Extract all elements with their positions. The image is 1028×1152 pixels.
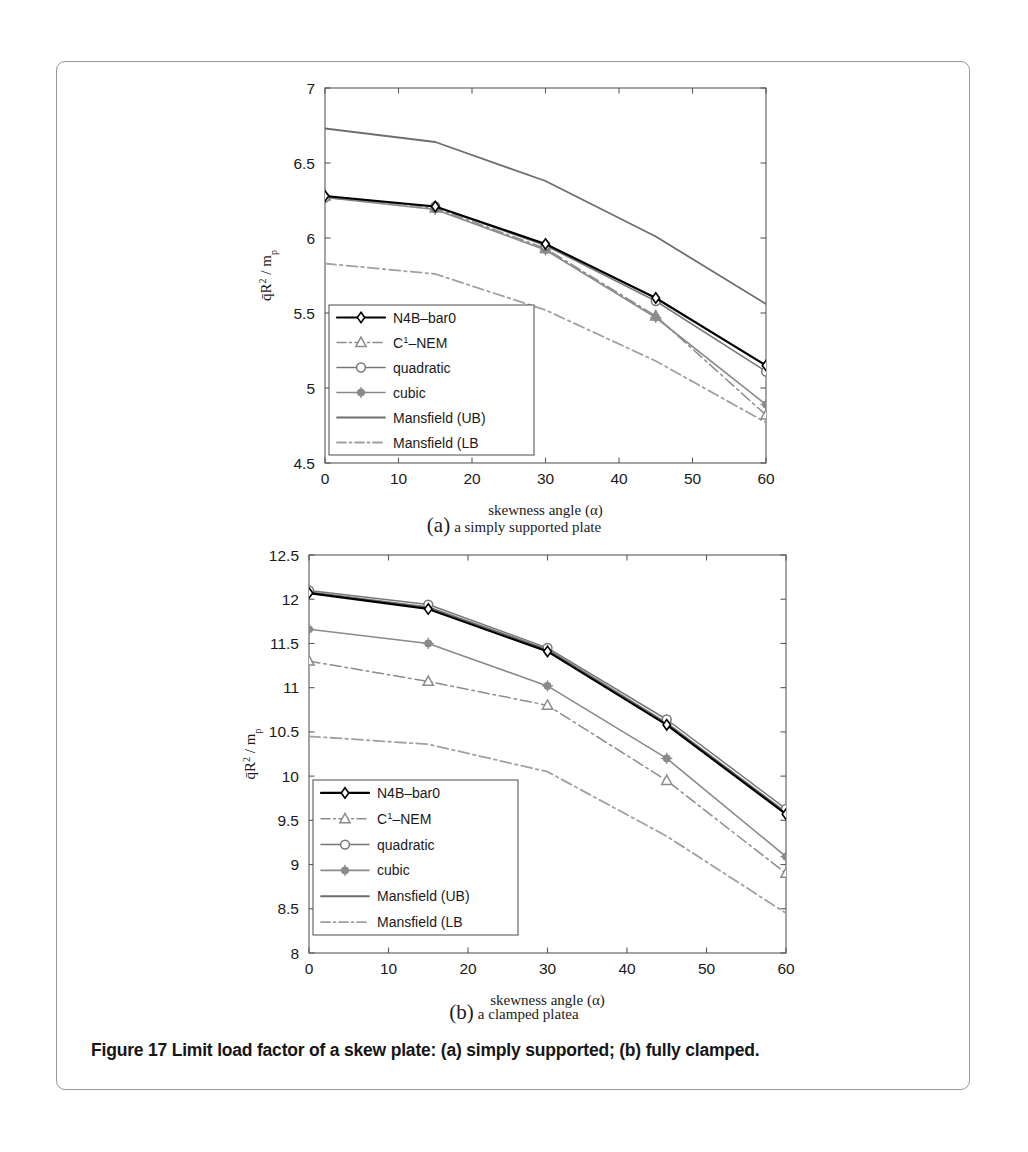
subcaption-b-text: a clamped platea bbox=[478, 1006, 579, 1022]
subcaption-a: (a) a simply supported plate bbox=[57, 513, 971, 538]
legend-label-1: C1–NEM bbox=[393, 333, 447, 351]
figure-caption: Figure 17 Limit load factor of a skew pl… bbox=[91, 1040, 941, 1061]
y-tick-label: 12 bbox=[282, 591, 299, 608]
chart-b-container: 010203040506088.599.51010.51111.51212.5s… bbox=[57, 537, 971, 1027]
x-tick-label: 60 bbox=[757, 470, 775, 487]
subcaption-b-label: (b) bbox=[449, 1000, 474, 1024]
x-tick-label: 0 bbox=[321, 470, 330, 487]
x-tick-label: 40 bbox=[618, 960, 636, 977]
x-tick-label: 60 bbox=[777, 960, 795, 977]
x-tick-label: 20 bbox=[463, 470, 481, 487]
series-line-4 bbox=[325, 129, 766, 305]
y-tick-label: 5 bbox=[306, 380, 315, 397]
legend-box bbox=[329, 305, 534, 455]
legend-label-2: quadratic bbox=[377, 837, 435, 853]
y-tick-label: 8.5 bbox=[277, 900, 299, 917]
marker-circle bbox=[341, 840, 350, 849]
x-tick-label: 50 bbox=[698, 960, 716, 977]
legend-label-0: N4B–bar0 bbox=[377, 785, 440, 801]
subcaption-b: (b) a clamped platea bbox=[57, 1000, 971, 1025]
y-tick-label: 10.5 bbox=[269, 723, 299, 740]
chart-legend: N4B–bar0C1–NEMquadraticcubicMansfield (U… bbox=[329, 305, 534, 455]
y-tick-label: 5.5 bbox=[293, 305, 315, 322]
y-axis-title-text: q̄R2 / mp bbox=[241, 729, 263, 780]
y-tick-label: 7 bbox=[306, 80, 315, 97]
y-tick-label: 10 bbox=[282, 768, 300, 785]
chart-b-plot: 010203040506088.599.51010.51111.51212.5s… bbox=[57, 537, 971, 1027]
y-tick-label: 6.5 bbox=[293, 155, 315, 172]
legend-label-1: C1–NEM bbox=[377, 809, 431, 827]
legend-label-3: cubic bbox=[377, 862, 410, 878]
y-axis-title: q̄R2 / mp bbox=[257, 250, 279, 301]
legend-label-0: N4B–bar0 bbox=[393, 310, 456, 326]
legend-label-3: cubic bbox=[393, 385, 426, 401]
x-tick-label: 10 bbox=[380, 960, 398, 977]
legend-box bbox=[313, 780, 518, 935]
chart-a-plot: 01020304050604.555.566.57skewness angle … bbox=[57, 62, 971, 537]
legend-label-4: Mansfield (UB) bbox=[377, 888, 470, 904]
y-axis-title-text: q̄R2 / mp bbox=[257, 250, 279, 301]
y-tick-label: 11.5 bbox=[270, 635, 299, 652]
x-tick-label: 10 bbox=[390, 470, 408, 487]
marker-triangle bbox=[662, 775, 672, 784]
y-tick-label: 6 bbox=[306, 230, 315, 247]
y-tick-label: 11 bbox=[283, 679, 299, 696]
chart-legend: N4B–bar0C1–NEMquadraticcubicMansfield (U… bbox=[313, 780, 518, 935]
chart-a-container: 01020304050604.555.566.57skewness angle … bbox=[57, 62, 971, 537]
y-tick-label: 4.5 bbox=[293, 455, 315, 472]
legend-label-5: Mansfield (LB bbox=[393, 435, 479, 451]
figure-frame: 01020304050604.555.566.57skewness angle … bbox=[56, 61, 970, 1090]
subcaption-a-text: a simply supported plate bbox=[454, 519, 601, 535]
x-tick-label: 20 bbox=[459, 960, 477, 977]
y-tick-label: 9 bbox=[290, 856, 299, 873]
legend-label-5: Mansfield (LB bbox=[377, 914, 463, 930]
subcaption-a-label: (a) bbox=[427, 513, 450, 537]
y-tick-label: 12.5 bbox=[269, 547, 299, 564]
legend-label-2: quadratic bbox=[393, 360, 451, 376]
x-tick-label: 0 bbox=[305, 960, 314, 977]
y-tick-label: 9.5 bbox=[277, 812, 299, 829]
x-tick-label: 30 bbox=[537, 470, 555, 487]
x-tick-label: 50 bbox=[684, 470, 702, 487]
x-tick-label: 30 bbox=[539, 960, 557, 977]
x-tick-label: 40 bbox=[610, 470, 628, 487]
marker-triangle bbox=[781, 868, 791, 877]
marker-circle bbox=[357, 363, 366, 372]
legend-label-4: Mansfield (UB) bbox=[393, 410, 486, 426]
marker-triangle bbox=[304, 656, 314, 665]
y-tick-label: 8 bbox=[290, 945, 299, 962]
y-axis-title: q̄R2 / mp bbox=[241, 729, 263, 780]
